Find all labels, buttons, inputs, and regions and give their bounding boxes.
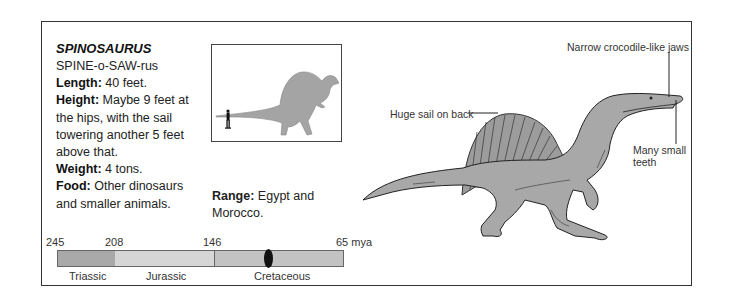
fact-list: SPINE-o-SAW-rus Length: 40 feet. Height:…	[56, 58, 206, 213]
period-cretaceous-label: Cretaceous	[254, 270, 310, 282]
era-marker-icon	[264, 249, 273, 268]
period-jurassic-bar	[115, 250, 215, 267]
callout-teeth-line1: Many small	[633, 144, 686, 156]
callout-sail: Huge sail on back	[390, 108, 473, 120]
fact-value: 4 tons.	[102, 162, 143, 176]
fact-range: Range: Egypt and Morocco.	[212, 188, 332, 222]
callout-teeth-line2: teeth	[633, 156, 656, 168]
fact-label: Weight:	[56, 162, 102, 176]
pronunciation: SPINE-o-SAW-rus	[56, 58, 206, 75]
range-label: Range:	[212, 189, 254, 203]
size-comparison-box	[211, 44, 342, 142]
callout-jaws: Narrow crocodile-like jaws	[567, 41, 689, 53]
fact-height: Height: Maybe 9 feet at the hips, with t…	[56, 92, 206, 161]
period-cretaceous-bar	[214, 250, 344, 267]
fact-food: Food: Other dinosaurs and smaller animal…	[56, 178, 206, 212]
fact-label: Length:	[56, 76, 102, 90]
fact-weight: Weight: 4 tons.	[56, 161, 206, 178]
tick-146: 146	[203, 236, 221, 248]
fact-label: Food:	[56, 179, 91, 193]
tick-208: 208	[105, 236, 123, 248]
period-triassic-label: Triassic	[69, 270, 106, 282]
period-jurassic-label: Jurassic	[146, 270, 186, 282]
fact-value: 40 feet.	[102, 76, 147, 90]
dinosaur-silhouette-icon	[212, 45, 343, 143]
period-triassic-bar	[57, 250, 116, 267]
fact-label: Height:	[56, 93, 99, 107]
fact-length: Length: 40 feet.	[56, 75, 206, 92]
human-silhouette-icon	[225, 109, 231, 128]
tick-245: 245	[46, 236, 64, 248]
dinosaur-name: SPINOSAURUS	[56, 41, 151, 56]
